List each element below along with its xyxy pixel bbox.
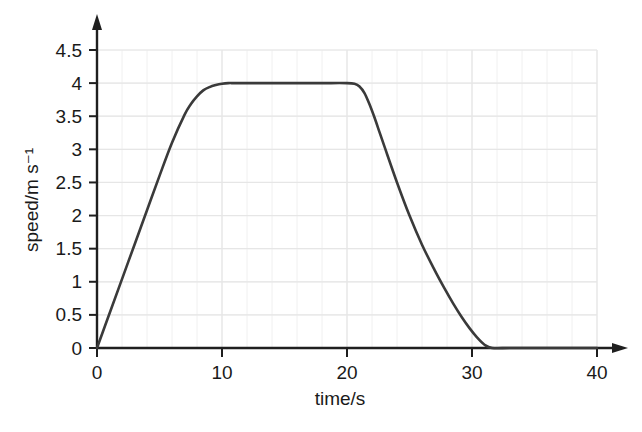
x-tick-label: 10 (211, 362, 232, 383)
y-tick-label: 0.5 (56, 304, 82, 325)
y-tick-label: 2 (71, 205, 82, 226)
chart-page: 00.511.522.533.544.5 010203040 time/s sp… (0, 0, 642, 432)
y-tick-label: 4 (71, 73, 82, 94)
x-tick-label: 40 (586, 362, 607, 383)
x-axis-label: time/s (315, 388, 366, 409)
y-tick-label: 3.5 (56, 106, 82, 127)
y-tick-label: 0 (71, 338, 82, 359)
y-axis-label: speed/m s⁻¹ (21, 148, 42, 252)
x-tick-label: 30 (461, 362, 482, 383)
x-tick-label: 20 (336, 362, 357, 383)
speed-time-graph: 00.511.522.533.544.5 010203040 time/s sp… (0, 0, 642, 432)
x-tick-label: 0 (92, 362, 103, 383)
y-tick-label: 1.5 (56, 238, 82, 259)
y-tick-label: 4.5 (56, 40, 82, 61)
y-tick-label: 2.5 (56, 172, 82, 193)
y-tick-label: 3 (71, 139, 82, 160)
y-tick-label: 1 (71, 271, 82, 292)
